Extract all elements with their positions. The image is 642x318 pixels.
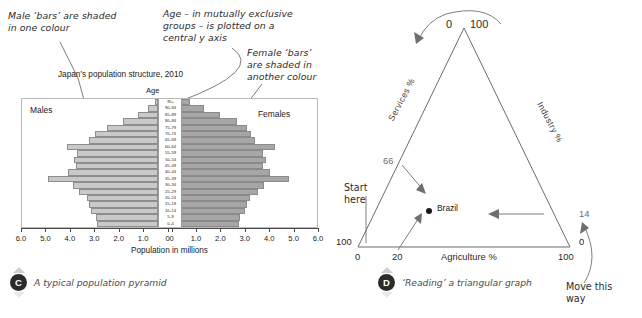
pyramid-x-tick [245,228,246,232]
pyramid-x-tick-label: 3.0 [239,234,250,243]
pyramid-x-tick-label: 1.0 [138,234,149,243]
triangular-graph: 0 100 Services % Industry % Agriculture … [336,0,642,300]
pyramid-x-tick-label: 2.0 [113,234,124,243]
pyramid-x-tick-label: 5.0 [40,234,51,243]
triangle-svg [336,0,642,270]
hint-move-this-way: Move this way [566,281,612,304]
caption-d-text: ‘Reading’ a triangular graph [402,277,532,288]
caption-c-badge: C [10,274,27,291]
pyramid-x-tick-label: 6.0 [313,234,324,243]
pyramid-x-tick [172,228,173,232]
pyramid-age-axis-column: 95+90–9485–8980–8475–7970–7465–6960–6455… [158,99,182,227]
triangle-industry-reading: 14 [579,208,589,219]
population-pyramid-chart: Japan’s population structure, 2010 Age M… [8,58,328,258]
pyramid-x-tick [318,228,319,232]
figure-root: Male ‘bars’ are shaded in one colour Age… [0,0,642,318]
triangle-right-corner-industry-0: 0 [579,236,584,247]
triangle-apex-right-value: 100 [470,18,488,30]
triangle-apex-left-value: 0 [446,18,452,30]
pyramid-x-tick [168,228,169,232]
pyramid-x-tick [143,228,144,232]
pyramid-x-tick [220,228,221,232]
pyramid-x-tick-label: 6.0 [16,234,27,243]
caption-d-badge: D [378,274,395,291]
pyramid-x-tick-label: 4.0 [65,234,76,243]
pyramid-age-label: 0–4 [159,221,183,227]
pyramid-x-tick [294,228,295,232]
triangle-right-corner-agriculture-100: 100 [558,251,574,262]
pyramid-x-tick-label: 2.0 [215,234,226,243]
caption-c: C A typical population pyramid [10,274,167,291]
caption-c-text: A typical population pyramid [34,277,167,288]
triangle-left-corner-agriculture-0: 0 [355,251,360,262]
triangle-agriculture-tick-20: 20 [392,251,402,262]
pyramid-x-tick [45,228,46,232]
pyramid-x-axis-line [21,228,318,229]
pyramid-x-axis-label: Population in millions [21,246,318,255]
triangle-left-corner-services-100: 100 [336,236,352,247]
pyramid-bar-male [97,221,158,227]
pyramid-x-tick [21,228,22,232]
pyramid-bar-female [181,221,239,227]
pyramid-x-tick [119,228,120,232]
hint-start-here: Start here [344,182,367,205]
pyramid-x-tick [269,228,270,232]
pyramid-x-tick-label: 0 [169,234,173,243]
pyramid-x-tick-label: 1.0 [191,234,202,243]
pyramid-x-tick-label: 3.0 [89,234,100,243]
brazil-data-point [426,208,432,214]
pyramid-title: Japan’s population structure, 2010 [58,70,183,79]
pyramid-x-tick-label: 5.0 [288,234,299,243]
pyramid-x-tick [70,228,71,232]
triangle-axis-agriculture: Agriculture % [441,251,497,262]
pyramid-x-tick [196,228,197,232]
pyramid-plot-area: Males Females 95+90–9485–8980–8475–7970–… [21,98,318,228]
brazil-point-label: Brazil [437,203,458,213]
pyramid-x-tick-label: 4.0 [264,234,275,243]
pyramid-x-tick [94,228,95,232]
triangle-services-reading: 66 [383,155,393,166]
pyramid-y-axis-label: Age [146,86,160,95]
caption-d: D ‘Reading’ a triangular graph [378,274,532,291]
